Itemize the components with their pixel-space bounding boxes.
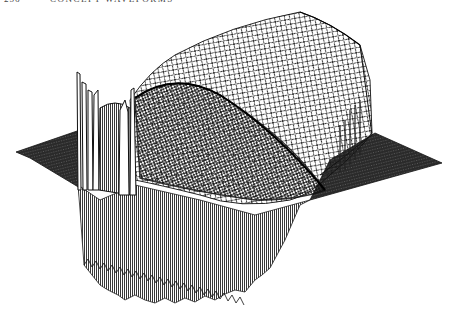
left-plane	[16, 130, 80, 188]
bottom-fringe	[78, 185, 310, 305]
left-spikes	[77, 72, 136, 195]
surface-plot	[0, 0, 458, 321]
